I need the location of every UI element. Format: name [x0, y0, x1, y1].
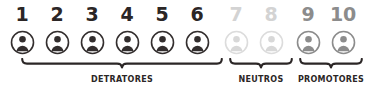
person-circle-icon-7[interactable]	[219, 29, 253, 55]
category-label-detratores: DETRATORES	[21, 74, 223, 86]
person-circle-icon-10[interactable]	[326, 29, 360, 55]
person-circle-icon-2[interactable]	[40, 29, 74, 55]
category-label-promotores: PROMOTORES	[295, 74, 367, 86]
nps-rating-scale: 1 2 3 4 5 6 7 8 9 10	[0, 0, 376, 90]
scale-number-8: 8	[254, 2, 288, 26]
person-circle-icon-6[interactable]	[180, 29, 214, 55]
scale-number-3: 3	[75, 2, 109, 26]
scale-number-7: 7	[219, 2, 253, 26]
bracket-detratores	[21, 58, 223, 72]
scale-number-6: 6	[180, 2, 214, 26]
bracket-promotores	[299, 58, 363, 72]
person-circle-icon-3[interactable]	[75, 29, 109, 55]
person-circle-icon-5[interactable]	[145, 29, 179, 55]
scale-number-5: 5	[145, 2, 179, 26]
category-label-row: DETRATORES NEUTROS PROMOTORES	[0, 74, 376, 90]
category-label-neutros: NEUTROS	[229, 74, 293, 86]
scale-number-9: 9	[291, 2, 325, 26]
scale-number-2: 2	[40, 2, 74, 26]
scale-number-4: 4	[110, 2, 144, 26]
scale-number-1: 1	[5, 2, 39, 26]
scale-number-10: 10	[326, 2, 360, 26]
bracket-neutros	[229, 58, 293, 72]
person-circle-icon-4[interactable]	[110, 29, 144, 55]
number-row: 1 2 3 4 5 6 7 8 9 10	[0, 2, 376, 26]
person-circle-icon-1[interactable]	[5, 29, 39, 55]
bracket-row	[0, 58, 376, 74]
icon-row	[0, 28, 376, 56]
person-circle-icon-8[interactable]	[254, 29, 288, 55]
person-circle-icon-9[interactable]	[291, 29, 325, 55]
